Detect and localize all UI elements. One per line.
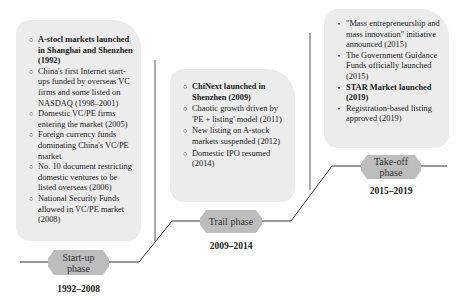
hollow-circle-bullet-icon: ○ [26, 162, 36, 173]
event-item: ○New listing on A-stock markets suspende… [180, 126, 289, 147]
trail-events-list: ○ChiNext launched in Shenzhen (2009) ○Ch… [180, 82, 289, 170]
filled-dot-bullet-icon: • [334, 51, 344, 62]
event-item: ○National Security Funds allowed in VC/P… [26, 194, 135, 226]
event-item: •STAR Market launched (2019) [334, 83, 445, 104]
startup-events-box: ○A-stocl markets launched in Shanghai an… [16, 20, 141, 241]
hollow-circle-bullet-icon: ○ [180, 82, 190, 93]
filled-dot-bullet-icon: • [334, 104, 344, 115]
hollow-circle-bullet-icon: ○ [26, 130, 36, 141]
event-item: ○Foreign currency funds dominating China… [26, 130, 135, 162]
takeoff-events-list: •"Mass entrepreneurship and mass innovat… [334, 19, 445, 125]
startup-years: 1992–2008 [48, 284, 109, 294]
hollow-circle-bullet-icon: ○ [26, 109, 36, 120]
event-item: ○Domestic IPO resumed (2014) [180, 149, 289, 170]
event-item: •Registration-based listing approved (20… [334, 104, 445, 125]
hollow-circle-bullet-icon: ○ [26, 35, 36, 46]
startup-phase-label: Start-up phase [48, 250, 109, 275]
event-item: ○No. 10 document restricting domestic ve… [26, 162, 135, 194]
event-item: ○Chaotic growth driven by 'PE + listing'… [180, 104, 289, 125]
hollow-circle-bullet-icon: ○ [26, 194, 36, 205]
hollow-circle-bullet-icon: ○ [180, 149, 190, 160]
event-item: •The Government Guidance Funds officiall… [334, 51, 445, 83]
trail-phase-label: Trail phase [200, 210, 262, 233]
event-item: ○ChiNext launched in Shenzhen (2009) [180, 82, 289, 103]
trail-years: 2009–2014 [200, 241, 262, 251]
takeoff-years: 2015–2019 [361, 186, 421, 196]
filled-dot-bullet-icon: • [334, 83, 344, 94]
hollow-circle-bullet-icon: ○ [180, 126, 190, 137]
event-item: ○Domestic VC/PE firms entering the marke… [26, 109, 135, 130]
trail-events-box: ○ChiNext launched in Shenzhen (2009) ○Ch… [170, 69, 295, 202]
startup-events-list: ○A-stocl markets launched in Shanghai an… [26, 35, 135, 226]
takeoff-events-box: •"Mass entrepreneurship and mass innovat… [324, 9, 449, 148]
event-item: ○China's first Internet start-ups funded… [26, 67, 135, 109]
hollow-circle-bullet-icon: ○ [180, 104, 190, 115]
event-item: ○A-stocl markets launched in Shanghai an… [26, 35, 135, 67]
takeoff-phase-label: Take-off phase [361, 155, 421, 179]
event-item: •"Mass entrepreneurship and mass innovat… [334, 19, 445, 51]
filled-dot-bullet-icon: • [334, 19, 344, 30]
hollow-circle-bullet-icon: ○ [26, 67, 36, 78]
